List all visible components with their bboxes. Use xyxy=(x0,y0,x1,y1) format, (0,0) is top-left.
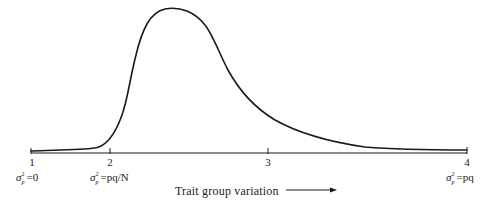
subscript: p xyxy=(95,176,98,188)
annotation-value: =pq/N xyxy=(100,171,128,183)
right-arrow-icon xyxy=(330,188,337,193)
annotation-value: =pq xyxy=(456,171,473,183)
subscript: p xyxy=(451,176,454,188)
tick-label-1: 1 xyxy=(29,157,35,168)
subscript: p xyxy=(21,176,24,188)
tick-label-2: 2 xyxy=(107,157,113,168)
trait-variation-diagram xyxy=(0,0,498,205)
x-axis-label: Trait group variation xyxy=(175,184,279,199)
annotation-tick-1: σ2p=0 xyxy=(16,171,38,183)
tick-label-4: 4 xyxy=(464,157,470,168)
annotation-tick-4: σ2p=pq xyxy=(446,171,474,183)
distribution-curve xyxy=(31,8,467,151)
annotation-value: =0 xyxy=(26,171,38,183)
annotation-tick-2: σ2p=pq/N xyxy=(90,171,129,183)
tick-label-3: 3 xyxy=(265,157,271,168)
